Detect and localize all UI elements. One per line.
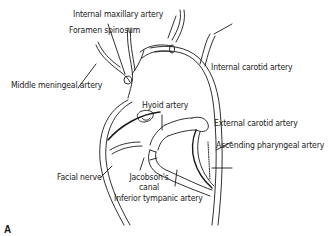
panel-label: A [4, 224, 11, 235]
label-internal-maxillary-artery: Internal maxillary artery [73, 9, 163, 19]
anatomy-diagram: Internal maxillary artery Foramen spinos… [0, 0, 333, 236]
label-ascending-pharyngeal-artery: Ascending pharyngeal artery [216, 140, 324, 150]
label-jacobsons-canal-line1: Jacobson's [124, 172, 174, 182]
label-internal-carotid-artery: Internal carotid artery [211, 62, 293, 72]
label-inferior-tympanic-artery: Inferior tympanic artery [114, 193, 203, 203]
label-jacobsons-canal: Jacobson's canal [124, 172, 174, 192]
label-external-carotid-artery: External carotid artery [214, 118, 298, 128]
label-facial-nerve: Facial nerve [57, 172, 102, 182]
label-middle-meningeal-artery: Middle meningeal artery [11, 80, 102, 90]
label-jacobsons-canal-line2: canal [124, 182, 174, 192]
label-hyoid-artery: Hyoid artery [142, 100, 188, 110]
label-foramen-spinosum: Foramen spinosum [69, 25, 140, 35]
